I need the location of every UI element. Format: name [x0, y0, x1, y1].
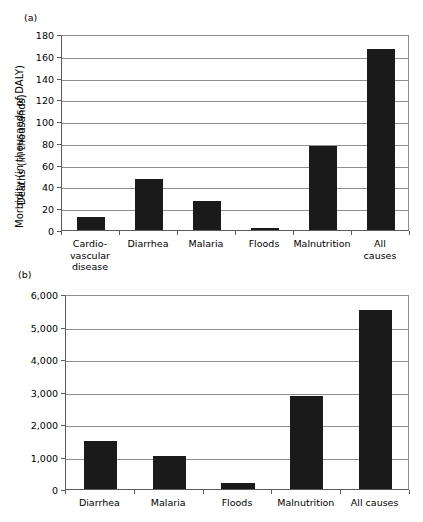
- y-axis-tick-mark: [61, 425, 65, 426]
- x-axis-tick-mark: [203, 490, 204, 494]
- x-axis-tick-mark: [409, 231, 410, 235]
- x-axis-tick-mark: [340, 490, 341, 494]
- y-axis-tick-mark: [57, 144, 61, 145]
- y-axis-tick-label: 120: [0, 95, 54, 106]
- y-axis-tick-label: 0: [0, 485, 58, 496]
- y-axis-tick-mark: [61, 295, 65, 296]
- bars-a: [62, 36, 408, 230]
- bars-b: [66, 296, 408, 489]
- x-axis-tick-mark: [61, 231, 62, 235]
- x-axis-tick-mark: [293, 231, 294, 235]
- plot-area-b: [65, 295, 409, 490]
- plot-area-a: [61, 35, 409, 231]
- x-axis-tick-mark: [271, 490, 272, 494]
- bar: [359, 310, 392, 489]
- y-axis-tick-mark: [61, 328, 65, 329]
- bar: [367, 49, 395, 230]
- x-axis-tick-label: All causes: [351, 497, 399, 509]
- y-axis-tick-label: 1,000: [0, 452, 58, 463]
- bar: [77, 217, 105, 230]
- bar: [251, 228, 279, 230]
- bar: [309, 146, 337, 230]
- x-axis-tick-mark: [409, 490, 410, 494]
- x-axis-tick-mark: [119, 231, 120, 235]
- bar: [221, 483, 254, 489]
- bar: [193, 201, 221, 230]
- y-axis-tick-mark: [57, 100, 61, 101]
- y-axis-tick-mark: [57, 35, 61, 36]
- panel-label-a: (a): [24, 12, 37, 23]
- x-axis-tick-mark: [134, 490, 135, 494]
- y-axis-tick-mark: [61, 360, 65, 361]
- y-axis-tick-label: 40: [0, 182, 54, 193]
- x-axis-tick-mark: [177, 231, 178, 235]
- y-axis-tick-label: 4,000: [0, 355, 58, 366]
- x-axis-tick-mark: [65, 490, 66, 494]
- bar: [84, 441, 117, 489]
- y-axis-tick-mark: [57, 209, 61, 210]
- x-axis-tick-label: Malnutrition: [277, 497, 334, 509]
- x-axis-tick-label: Malnutrition: [293, 238, 350, 250]
- y-axis-tick-label: 0: [0, 226, 54, 237]
- y-axis-tick-mark: [61, 458, 65, 459]
- x-axis-tick-label: Floods: [222, 497, 253, 509]
- y-axis-tick-label: 20: [0, 204, 54, 215]
- x-axis-tick-label: Malaria: [189, 238, 224, 250]
- y-axis-tick-label: 140: [0, 73, 54, 84]
- y-axis-tick-label: 100: [0, 117, 54, 128]
- x-axis-tick-mark: [235, 231, 236, 235]
- bar: [135, 179, 163, 230]
- bar: [153, 456, 186, 489]
- y-axis-tick-mark: [57, 166, 61, 167]
- panel-label-b: (b): [18, 269, 31, 280]
- y-axis-tick-label: 80: [0, 138, 54, 149]
- x-axis-tick-label: Malaria: [151, 497, 186, 509]
- y-axis-tick-mark: [57, 57, 61, 58]
- y-axis-tick-label: 160: [0, 51, 54, 62]
- bar: [290, 396, 323, 489]
- y-axis-tick-mark: [61, 393, 65, 394]
- x-axis-tick-label: Diarrhea: [79, 497, 120, 509]
- y-axis-tick-mark: [57, 122, 61, 123]
- y-axis-tick-label: 2,000: [0, 420, 58, 431]
- chart-panel-a: (a) Deaths (in thousands) 02040608010012…: [0, 0, 423, 262]
- y-axis-tick-label: 5,000: [0, 322, 58, 333]
- y-axis-tick-label: 3,000: [0, 387, 58, 398]
- y-axis-tick-label: 6,000: [0, 290, 58, 301]
- y-axis-tick-label: 60: [0, 160, 54, 171]
- y-axis-title-b: Morbidity (in thousands of DALY): [14, 65, 25, 228]
- x-axis-tick-label: Floods: [249, 238, 280, 250]
- x-axis-tick-label: Diarrhea: [128, 238, 169, 250]
- x-axis-tick-label: All causes: [359, 238, 402, 261]
- y-axis-tick-mark: [57, 79, 61, 80]
- x-axis-tick-mark: [351, 231, 352, 235]
- y-axis-tick-mark: [57, 187, 61, 188]
- y-axis-tick-label: 180: [0, 30, 54, 41]
